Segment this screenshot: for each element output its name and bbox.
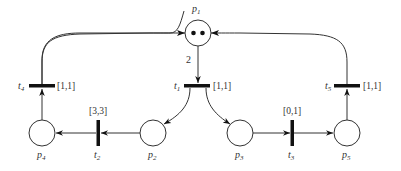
place-p3 — [227, 120, 253, 146]
arc-t5-p1-curve — [211, 33, 347, 86]
arc-t4-p1 — [42, 11, 184, 86]
transition-t1 — [184, 84, 210, 88]
transition-t3 — [291, 120, 295, 146]
token-dot — [191, 31, 196, 36]
label-p4: p4 — [36, 149, 46, 162]
label-t2: t2 — [94, 149, 101, 162]
label-p5: p5 — [341, 149, 351, 162]
place-p2 — [140, 120, 166, 146]
interval-t5: [1,1] — [363, 81, 381, 91]
transition-t5 — [334, 84, 360, 88]
transition-t2 — [97, 120, 101, 146]
interval-t4: [1,1] — [57, 81, 75, 91]
interval-t2: [3,3] — [89, 106, 107, 116]
label-t3: t3 — [288, 149, 295, 162]
interval-t1: [1,1] — [213, 81, 231, 91]
petri-net-diagram: p1 p2 p3 p4 p5 t1 [1,1] t2 [3,3] t3 [0,1… — [0, 0, 401, 171]
place-p5 — [334, 120, 360, 146]
interval-t3: [0,1] — [283, 106, 301, 116]
label-p1: p1 — [191, 3, 201, 16]
label-t5: t5 — [325, 80, 332, 93]
transition-t4 — [29, 84, 55, 88]
token-dot — [200, 31, 205, 36]
place-p4 — [29, 120, 55, 146]
arc-t4-p1-curve — [42, 33, 185, 86]
place-p1 — [185, 20, 211, 46]
label-t1: t1 — [174, 80, 180, 93]
label-p3: p3 — [234, 149, 244, 162]
label-t4: t4 — [18, 80, 25, 93]
arc-t1-p3 — [206, 88, 230, 124]
label-p2: p2 — [147, 149, 157, 162]
arc-t1-p2 — [164, 88, 190, 124]
arc-weight-p1-t1: 2 — [186, 54, 191, 65]
